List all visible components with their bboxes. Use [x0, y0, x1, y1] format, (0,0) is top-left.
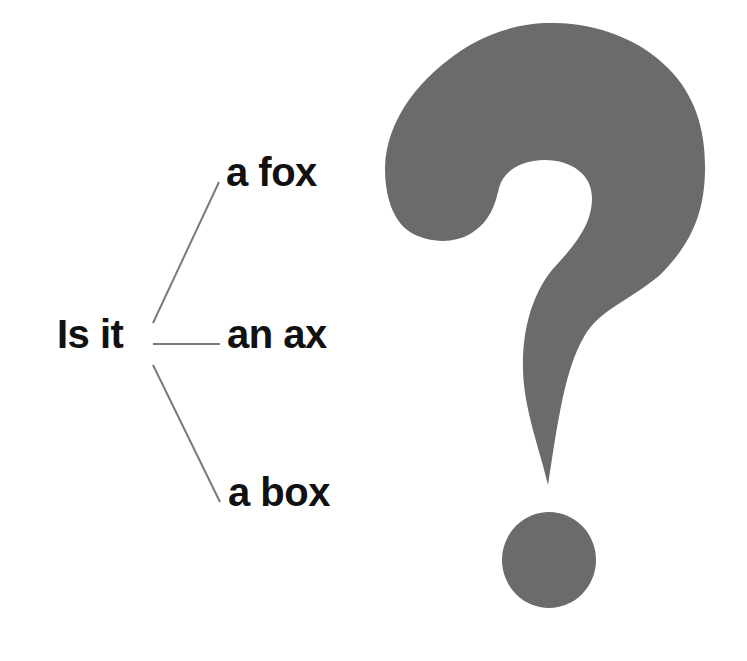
question-mark-dot-icon: [502, 512, 596, 608]
branch-label-box: a box: [228, 472, 330, 512]
branch-label-fox: a fox: [226, 152, 317, 192]
branch-line-box: [153, 365, 220, 502]
branch-label-ax: an ax: [227, 314, 327, 354]
branch-line-fox: [153, 182, 219, 323]
root-label: Is it: [57, 314, 123, 354]
question-mark-icon: [385, 23, 705, 485]
